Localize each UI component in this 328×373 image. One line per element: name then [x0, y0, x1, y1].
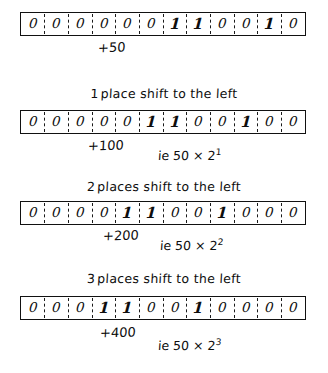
bit-value: 0	[217, 115, 227, 129]
bit-value: 0	[52, 17, 62, 31]
bit-cell: 1	[258, 13, 282, 35]
bit-value: 0	[123, 17, 133, 31]
bit-value: 1	[169, 115, 180, 130]
bit-value: 0	[288, 17, 298, 31]
bit-cell: 0	[116, 13, 140, 35]
bit-value: 0	[241, 206, 251, 220]
bit-cell: 0	[92, 202, 116, 224]
bit-value: 0	[52, 301, 62, 315]
bit-register-2: 0 0 0 0 1 1 0 0 1 0 0 0	[20, 201, 306, 225]
bit-value: 0	[99, 206, 109, 220]
bit-value: 0	[28, 301, 38, 315]
bit-cell: 0	[21, 111, 45, 133]
bit-value: 1	[216, 206, 227, 221]
bit-cell: 0	[21, 202, 45, 224]
bit-cell: 0	[92, 13, 116, 35]
bit-cell: 1	[163, 13, 187, 35]
bit-cell: 0	[68, 297, 92, 319]
bit-value: 0	[241, 301, 251, 315]
bit-cell: 0	[234, 202, 258, 224]
bit-value: 0	[194, 206, 204, 220]
multiplier-note-exponent: 2	[217, 237, 223, 247]
bit-cell: 0	[21, 297, 45, 319]
multiplier-note: ie 50 × 22	[159, 238, 223, 253]
bit-cell: 0	[187, 202, 211, 224]
shift-heading: 3places shift to the left	[0, 271, 328, 286]
bit-cell: 0	[45, 111, 69, 133]
bit-value: 1	[193, 17, 204, 32]
bit-cell: 0	[45, 202, 69, 224]
bit-cell: 0	[163, 297, 187, 319]
shift-heading-text: places shift to the left	[97, 271, 241, 286]
multiplier-note-base: ie 50 × 2	[157, 338, 215, 353]
bit-cell: 0	[45, 297, 69, 319]
bit-cell: 0	[210, 13, 234, 35]
bit-cell: 0	[281, 111, 305, 133]
bit-value: 1	[264, 17, 275, 32]
bit-cell: 0	[139, 297, 163, 319]
shift-heading-text: places shift to the left	[97, 179, 241, 194]
bit-cell: 0	[116, 111, 140, 133]
bit-value: 0	[52, 206, 62, 220]
bit-cell: 1	[187, 297, 211, 319]
decimal-value-label: +400	[100, 324, 137, 340]
bit-cell: 0	[210, 297, 234, 319]
bit-cell: 0	[234, 13, 258, 35]
multiplier-note-exponent: 3	[215, 337, 221, 347]
bit-cell: 1	[139, 202, 163, 224]
multiplier-note: ie 50 × 21	[157, 148, 221, 163]
bit-cell: 1	[139, 111, 163, 133]
bit-cell: 0	[258, 297, 282, 319]
bit-cell: 0	[258, 111, 282, 133]
bit-cell: 0	[21, 13, 45, 35]
bit-cell: 0	[281, 297, 305, 319]
bit-cell: 0	[68, 202, 92, 224]
bit-cell: 0	[92, 111, 116, 133]
bit-cell: 1	[187, 13, 211, 35]
bit-value: 1	[169, 17, 180, 32]
bit-cell: 1	[234, 111, 258, 133]
bit-cell: 0	[258, 202, 282, 224]
bit-cell: 0	[45, 13, 69, 35]
bit-cell: 1	[163, 111, 187, 133]
bit-value: 0	[194, 115, 204, 129]
multiplier-note-base: ie 50 × 2	[159, 238, 217, 253]
bit-value: 0	[28, 17, 38, 31]
bit-cell: 1	[92, 297, 116, 319]
bit-cell: 0	[163, 202, 187, 224]
bit-value: 0	[28, 115, 38, 129]
bit-register-1: 0 0 0 0 0 1 1 0 0 1 0 0	[20, 110, 306, 134]
bit-cell: 0	[281, 13, 305, 35]
bit-value: 1	[240, 115, 251, 130]
shift-heading: 1place shift to the left	[0, 86, 328, 101]
bit-value: 0	[288, 115, 298, 129]
bit-value: 1	[145, 206, 156, 221]
figure-canvas: 0 0 0 0 0 0 1 1 0 0 1 0 +50 1place shift…	[0, 0, 328, 373]
bit-cell: 1	[210, 202, 234, 224]
bit-value: 0	[265, 301, 275, 315]
decimal-value-label: +100	[88, 137, 125, 153]
bit-value: 1	[193, 301, 204, 316]
bit-value: 0	[288, 301, 298, 315]
multiplier-note-base: ie 50 × 2	[157, 148, 215, 163]
bit-cell: 1	[116, 202, 140, 224]
bit-value: 0	[288, 206, 298, 220]
multiplier-note: ie 50 × 23	[157, 338, 221, 353]
bit-register-0: 0 0 0 0 0 0 1 1 0 0 1 0	[20, 12, 306, 36]
bit-value: 1	[145, 115, 156, 130]
bit-value: 0	[241, 17, 251, 31]
bit-value: 0	[75, 17, 85, 31]
bit-value: 0	[52, 115, 62, 129]
bit-value: 0	[28, 206, 38, 220]
bit-register-3: 0 0 0 1 1 0 0 1 0 0 0 0	[20, 296, 306, 320]
bit-cell: 1	[116, 297, 140, 319]
shift-heading-text: place shift to the left	[100, 86, 238, 101]
bit-value: 0	[146, 17, 156, 31]
bit-value: 0	[217, 301, 227, 315]
bit-value: 0	[99, 115, 109, 129]
bit-value: 1	[98, 301, 109, 316]
bit-cell: 0	[281, 202, 305, 224]
bit-value: 0	[123, 115, 133, 129]
decimal-value-label: +200	[103, 227, 140, 243]
bit-value: 0	[75, 206, 85, 220]
